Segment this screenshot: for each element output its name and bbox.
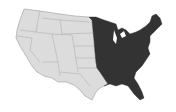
us-map [0, 0, 176, 112]
